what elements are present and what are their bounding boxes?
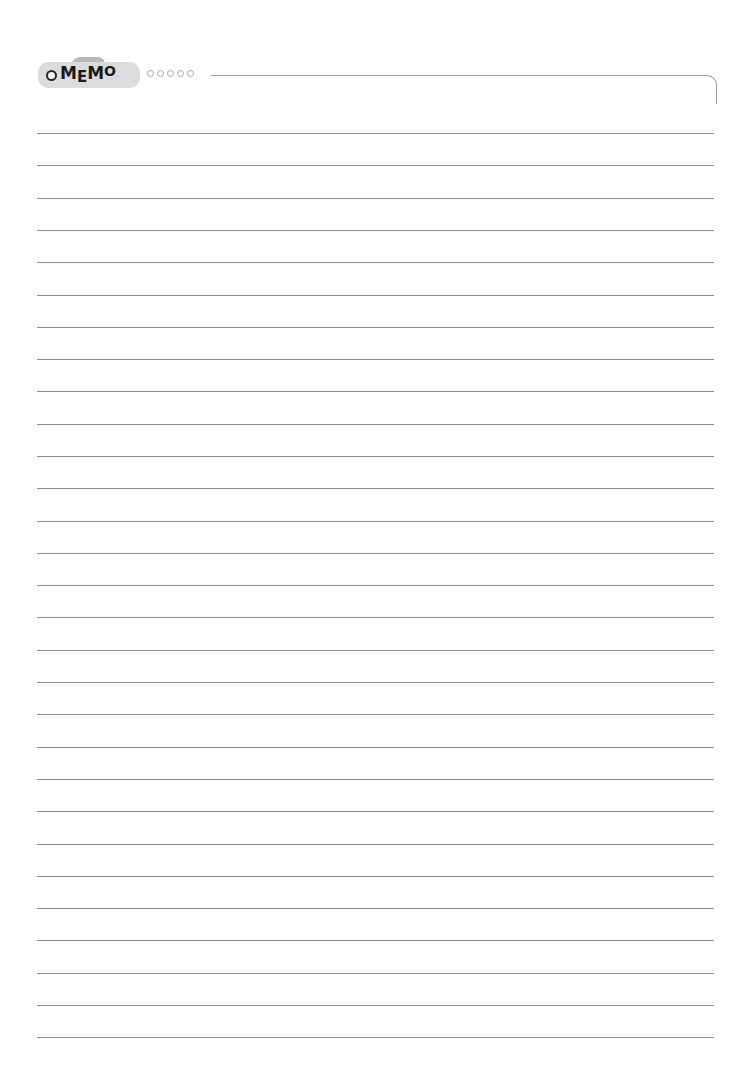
circle-dot-icon bbox=[187, 70, 194, 77]
ruled-line bbox=[37, 876, 714, 877]
ruled-line bbox=[37, 811, 714, 812]
ruled-line bbox=[37, 940, 714, 941]
ruled-line bbox=[37, 295, 714, 296]
ruled-line bbox=[37, 1005, 714, 1006]
circle-dot-icon bbox=[167, 70, 174, 77]
ruled-line bbox=[37, 262, 714, 263]
ruled-line bbox=[37, 230, 714, 231]
ruled-line bbox=[37, 617, 714, 618]
circle-dot-icon bbox=[147, 70, 154, 77]
ruled-line bbox=[37, 165, 714, 166]
ruled-line bbox=[37, 327, 714, 328]
decorative-dots bbox=[147, 70, 194, 77]
ruled-line bbox=[37, 650, 714, 651]
header-rounded-corner bbox=[700, 75, 717, 104]
ruled-line bbox=[37, 714, 714, 715]
ruled-line bbox=[37, 198, 714, 199]
title-letter: M bbox=[87, 63, 104, 83]
title-letter: E bbox=[77, 68, 87, 86]
ruled-line bbox=[37, 359, 714, 360]
ring-bullet-icon bbox=[46, 70, 57, 81]
memo-title: MEMO bbox=[60, 63, 116, 83]
ruled-line bbox=[37, 973, 714, 974]
ruled-line bbox=[37, 391, 714, 392]
ruled-line bbox=[37, 682, 714, 683]
circle-dot-icon bbox=[177, 70, 184, 77]
memo-header: MEMO bbox=[0, 0, 748, 120]
ruled-line bbox=[37, 133, 714, 134]
ruled-line bbox=[37, 456, 714, 457]
ruled-line bbox=[37, 779, 714, 780]
header-divider-line bbox=[211, 75, 704, 76]
title-letter: M bbox=[60, 63, 77, 83]
ruled-line bbox=[37, 585, 714, 586]
ruled-line bbox=[37, 521, 714, 522]
ruled-line bbox=[37, 1037, 714, 1038]
ruled-line bbox=[37, 488, 714, 489]
ruled-line bbox=[37, 553, 714, 554]
ruled-line bbox=[37, 844, 714, 845]
ruled-line bbox=[37, 747, 714, 748]
ruled-line bbox=[37, 908, 714, 909]
ruled-line bbox=[37, 424, 714, 425]
circle-dot-icon bbox=[157, 70, 164, 77]
title-letter: O bbox=[104, 63, 116, 79]
